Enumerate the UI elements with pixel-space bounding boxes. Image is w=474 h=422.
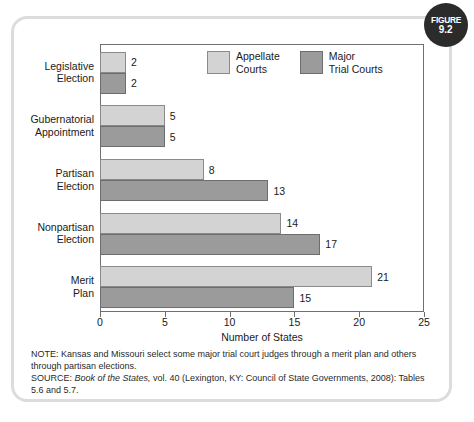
legend-label-appellate-courts: Appellate Courts: [236, 50, 280, 75]
x-tick-label-5: 5: [162, 316, 168, 328]
bar-value-label: 17: [325, 238, 337, 250]
source-line: SOURCE: Book of the States, vol. 40 (Lex…: [31, 373, 436, 396]
note-prefix: NOTE:: [31, 349, 59, 359]
chart-legend: Appellate Courts Major Trial Courts: [207, 50, 383, 75]
category-label-3: Nonpartisan Election: [0, 221, 94, 246]
bar-chart: Appellate Courts Major Trial Courts 2255…: [0, 0, 474, 345]
note-line: NOTE: Kansas and Missouri select some ma…: [31, 349, 436, 372]
bar-value-label: 15: [299, 292, 311, 304]
figure-footnotes: NOTE: Kansas and Missouri select some ma…: [31, 349, 436, 397]
bar-appellate-0: [100, 52, 126, 73]
legend-swatch-appellate-courts: [207, 51, 230, 74]
bar-value-label: 21: [377, 271, 389, 283]
bar-trial-1: [100, 126, 165, 147]
bar-trial-3: [100, 234, 320, 255]
category-label-2: Partisan Election: [0, 167, 94, 192]
x-tick-label-10: 10: [224, 316, 236, 328]
category-label-0: Legislative Election: [0, 60, 94, 85]
figure-badge-number: 9.2: [439, 24, 453, 35]
legend-swatch-major-trial-courts: [300, 51, 323, 74]
bar-value-label: 2: [131, 77, 137, 89]
bar-trial-0: [100, 73, 126, 94]
bar-trial-4: [100, 287, 294, 308]
x-tick-label-0: 0: [97, 316, 103, 328]
x-axis-title: Number of States: [100, 331, 424, 343]
source-title: Book of the States,: [75, 373, 151, 383]
figure-badge: FIGURE 9.2: [424, 3, 468, 47]
bar-value-label: 13: [273, 185, 285, 197]
bar-appellate-2: [100, 159, 204, 180]
x-tick-label-20: 20: [353, 316, 365, 328]
bar-appellate-3: [100, 213, 281, 234]
legend-label-major-trial-courts: Major Trial Courts: [329, 50, 383, 75]
legend-item-major-trial-courts: Major Trial Courts: [300, 50, 383, 75]
bar-value-label: 2: [131, 56, 137, 68]
bar-value-label: 8: [209, 164, 215, 176]
bar-value-label: 5: [170, 131, 176, 143]
x-tick-label-15: 15: [289, 316, 301, 328]
bar-trial-2: [100, 180, 268, 201]
bar-appellate-1: [100, 105, 165, 126]
category-label-4: Merit Plan: [0, 274, 94, 299]
bar-value-label: 5: [170, 110, 176, 122]
category-label-1: Gubernatorial Appointment: [0, 113, 94, 138]
x-tick-label-25: 25: [418, 316, 430, 328]
bar-value-label: 14: [286, 217, 298, 229]
source-prefix: SOURCE:: [31, 373, 72, 383]
legend-item-appellate-courts: Appellate Courts: [207, 50, 280, 75]
note-text: Kansas and Missouri select some major tr…: [31, 349, 416, 371]
bar-appellate-4: [100, 266, 372, 287]
